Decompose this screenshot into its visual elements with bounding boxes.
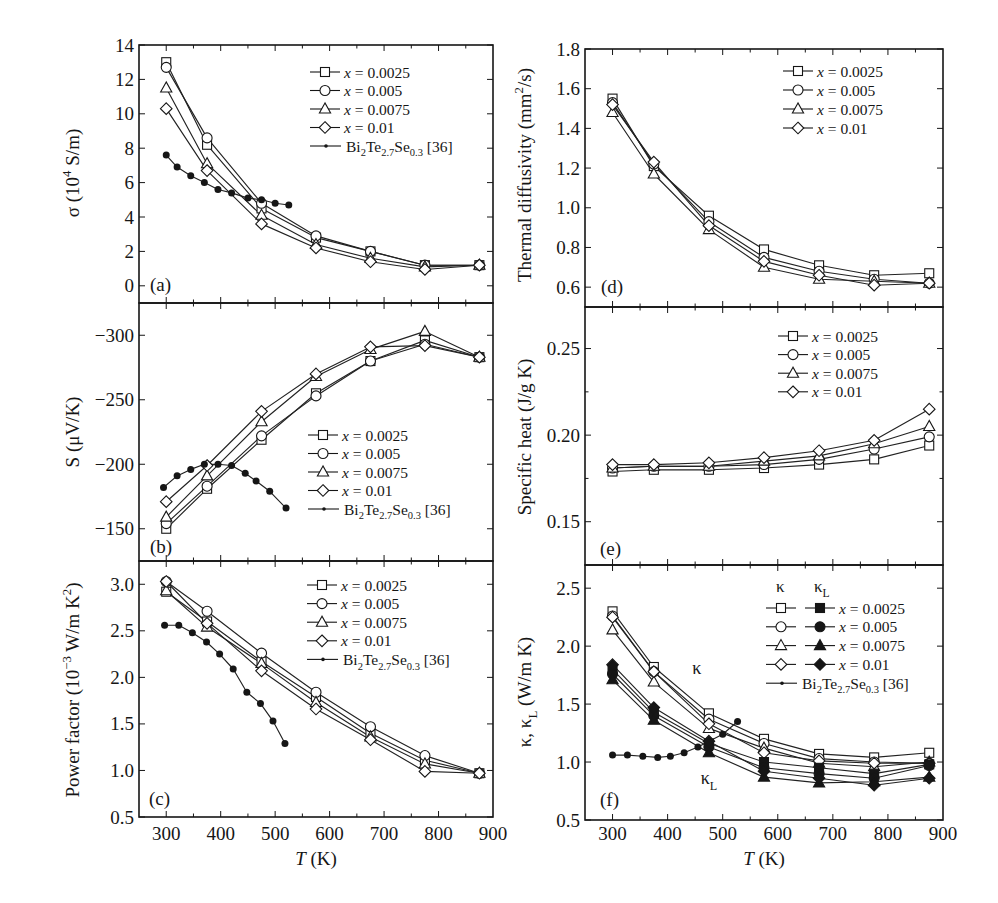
marker-dot-icon [163,152,170,159]
marker-dot-icon [734,718,741,725]
marker-dot-icon [228,189,235,196]
legend-label: x = 0.01 [838,656,890,673]
figure: 02468101214σ (104 S/m)(a)x = 0.0025x = 0… [0,0,998,903]
y-tick-label: −150 [95,518,134,539]
panel-label: (e) [600,538,621,560]
marker-dot-icon [228,462,235,469]
legend-label: x = 0.01 [340,632,392,649]
y-tick-label: 2.5 [110,620,134,641]
marker-square-icon [777,604,786,613]
y-tick-label: 1.0 [110,760,134,781]
marker-dot-icon [780,681,784,685]
marker-circle-icon [202,481,212,491]
marker-dot-icon [266,488,273,495]
y-tick-label: −200 [95,454,134,475]
x-tick-label: 900 [479,823,508,844]
y-tick-label: −300 [95,325,134,346]
marker-dot-icon [174,472,181,479]
legend-label: x = 0.0025 [341,427,408,444]
marker-circle-icon [793,85,803,95]
marker-square-icon [816,604,825,613]
x-tick-label: 800 [874,823,903,844]
y-tick-label: 2.0 [110,667,134,688]
marker-dot-icon [160,484,167,491]
marker-circle-icon [257,431,267,441]
x-tick-label: 300 [152,823,181,844]
legend-label: x = 0.0075 [838,637,905,654]
marker-circle-icon [202,133,212,143]
marker-circle-icon [311,391,321,401]
y-tick-label: 1.0 [556,752,580,773]
x-tick-label: 800 [424,823,453,844]
x-axis-label: T (K) [295,848,337,870]
legend-label: x = 0.005 [811,346,871,363]
marker-dot-icon [269,718,276,725]
figure-canvas: 02468101214σ (104 S/m)(a)x = 0.0025x = 0… [0,0,998,903]
y-tick-label: 14 [115,35,135,56]
y-tick-label: 0.15 [547,511,580,532]
marker-circle-icon [788,350,798,360]
x-tick-label: 700 [370,823,399,844]
marker-dot-icon [281,740,288,747]
legend-label: x = 0.01 [343,119,395,136]
y-tick-label: 4 [125,207,135,228]
marker-dot-icon [667,753,674,760]
y-tick-label: −250 [95,389,134,410]
legend-label: x = 0.01 [816,120,868,137]
y-tick-label: 2.0 [556,636,580,657]
marker-dot-icon [253,478,260,485]
marker-circle-icon [318,449,328,459]
annotation-label: κ [692,658,701,678]
legend-label: x = 0.01 [811,383,863,400]
panel-label: (b) [150,536,172,558]
marker-dot-icon [285,201,292,208]
y-tick-label: 1.4 [556,118,580,139]
legend-label: x = 0.0075 [340,614,407,631]
y-tick-label: 1.0 [556,197,580,218]
y-tick-label: 12 [115,69,134,90]
legend-label: x = 0.0075 [343,101,410,118]
legend-label: x = 0.0025 [340,577,407,594]
x-tick-label: 600 [315,823,344,844]
marker-dot-icon [201,179,208,186]
y-tick-label: 1.8 [556,39,580,60]
marker-dot-icon [322,507,326,511]
y-tick-label: 1.6 [556,78,580,99]
y-tick-label: 10 [115,103,134,124]
y-tick-label: 2 [125,241,135,262]
marker-square-icon [794,67,803,76]
marker-circle-icon [365,356,375,366]
marker-circle-icon [202,606,212,616]
marker-dot-icon [283,505,290,512]
marker-square-icon [870,455,879,464]
y-tick-label: 3.0 [110,574,134,595]
y-tick-label: 0.5 [556,810,580,831]
marker-dot-icon [324,144,328,148]
legend-label: x = 0.005 [341,445,401,462]
marker-dot-icon [201,461,208,468]
y-tick-label: 0.6 [556,277,580,298]
marker-dot-icon [203,638,210,645]
y-axis-label: Specific heat (J/g K) [514,359,536,516]
marker-dot-icon [214,186,221,193]
y-tick-label: 0.20 [547,425,580,446]
marker-dot-icon [719,731,726,738]
marker-circle-icon [924,761,934,771]
x-tick-label: 900 [929,823,958,844]
x-tick-label: 600 [764,823,793,844]
y-tick-label: 0.25 [547,338,580,359]
legend-label: x = 0.0075 [341,464,408,481]
marker-dot-icon [624,752,631,759]
panel-label: (c) [149,788,170,810]
legend-column-header: κ [776,577,785,596]
marker-dot-icon [257,700,264,707]
marker-dot-icon [321,658,325,662]
marker-dot-icon [654,754,661,761]
marker-square-icon [789,332,798,341]
marker-dot-icon [609,752,616,759]
legend-label: x = 0.0025 [811,328,878,345]
marker-dot-icon [244,195,251,202]
marker-dot-icon [175,622,182,629]
y-axis-label: S (μV/K) [62,397,84,468]
legend-label: x = 0.0075 [816,101,883,118]
